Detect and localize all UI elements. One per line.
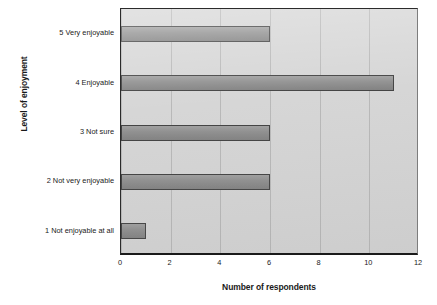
- x-axis-tick-label: 10: [353, 258, 383, 268]
- x-axis-tick-label: 8: [304, 258, 334, 268]
- gridline: [320, 9, 321, 253]
- x-axis-tick-label: 2: [155, 258, 185, 268]
- y-axis-tick-label: 2 Not very enjoyable: [0, 176, 114, 185]
- y-axis-title: Level of enjoyment: [16, 34, 32, 154]
- bar: [121, 174, 270, 190]
- x-axis-tick-label: 6: [254, 258, 284, 268]
- bar-chart: Level of enjoyment 1 Not enjoyable at al…: [0, 0, 437, 305]
- x-axis-tick-label: 4: [204, 258, 234, 268]
- gridline: [270, 9, 271, 253]
- x-axis-tick-label: 12: [403, 258, 433, 268]
- bar: [121, 223, 146, 239]
- bar: [121, 26, 270, 42]
- y-axis-tick-label: 3 Not sure: [0, 127, 114, 136]
- x-axis-title: Number of respondents: [120, 282, 418, 292]
- y-axis-tick-label: 5 Very enjoyable: [0, 28, 114, 37]
- x-axis-tick-label: 0: [105, 258, 135, 268]
- bar: [121, 75, 394, 91]
- bar: [121, 125, 270, 141]
- plot-area: [120, 8, 418, 255]
- gridline: [369, 9, 370, 253]
- y-axis-tick-label: 1 Not enjoyable at all: [0, 226, 114, 235]
- y-axis-tick-label: 4 Enjoyable: [0, 78, 114, 87]
